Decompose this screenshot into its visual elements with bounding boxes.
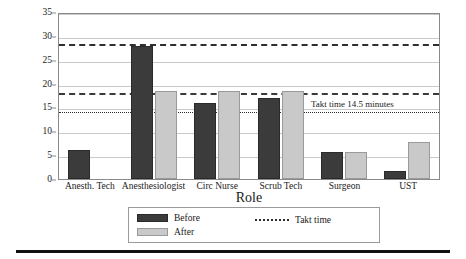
plot-area: Takt time 14.5 minutes — [58, 13, 440, 180]
y-axis-tick-mark — [52, 180, 56, 181]
bar-before — [321, 152, 343, 179]
bar-group — [122, 14, 185, 179]
bar-group — [376, 14, 439, 179]
chart-legend: Before After Takt time — [128, 207, 380, 243]
bar-after — [155, 91, 177, 179]
y-axis-tick-mark — [52, 36, 56, 37]
bar-after — [282, 91, 304, 179]
legend-item-before: Before — [137, 212, 255, 224]
y-axis-tick-mark — [52, 156, 56, 157]
y-axis-tick-mark — [52, 84, 56, 85]
bar-groups — [59, 14, 439, 179]
bar-group — [186, 14, 249, 179]
bar-after — [408, 142, 430, 179]
bar-group — [312, 14, 375, 179]
bar-group — [59, 14, 122, 179]
legend-dotted-line-icon — [255, 219, 289, 221]
legend-column-series: Before After — [137, 212, 255, 238]
bottom-rule-divider — [16, 250, 450, 253]
y-axis-tick-25: 25 — [43, 56, 53, 66]
bar-before — [131, 46, 153, 179]
legend-label-before: Before — [174, 213, 200, 223]
y-axis-tick-mark — [52, 60, 56, 61]
y-axis-tick-mark — [52, 108, 56, 109]
bar-before — [258, 98, 280, 179]
legend-label-takt-time: Takt time — [295, 215, 331, 225]
y-axis: 05101520253035 — [34, 13, 56, 180]
y-axis-tick-15: 15 — [43, 104, 53, 114]
chart-figure: Cycle Time (minutes) 05101520253035 Takt… — [0, 0, 466, 259]
bar-group — [249, 14, 312, 179]
bar-after — [345, 152, 367, 179]
bar-before — [68, 150, 90, 179]
bar-before — [384, 171, 406, 179]
y-axis-tick-35: 35 — [43, 8, 53, 18]
legend-swatch-after-icon — [137, 228, 168, 236]
legend-item-takt-time: Takt time — [255, 214, 331, 226]
y-axis-tick-20: 20 — [43, 80, 53, 90]
bar-before — [194, 103, 216, 179]
x-axis-title: Role — [58, 190, 440, 206]
y-axis-tick-mark — [52, 13, 56, 14]
y-axis-tick-10: 10 — [43, 128, 53, 138]
bar-after — [218, 91, 240, 179]
legend-column-takt: Takt time — [255, 212, 371, 238]
legend-label-after: After — [174, 227, 194, 237]
y-axis-tick-30: 30 — [43, 32, 53, 42]
y-axis-tick-mark — [52, 132, 56, 133]
legend-item-after: After — [137, 226, 255, 238]
legend-swatch-before-icon — [137, 214, 168, 222]
